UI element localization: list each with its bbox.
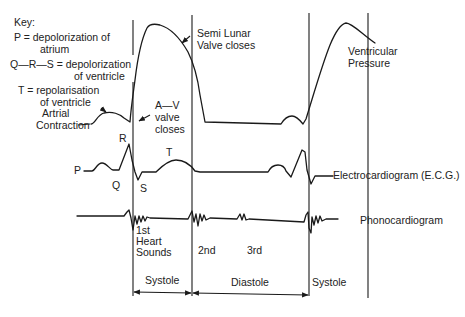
diastole-arrow xyxy=(193,293,308,295)
arrow-atrial-contraction xyxy=(101,108,106,112)
arrow-semilunar xyxy=(182,36,190,43)
phase-labels: Systole Diastole Systole xyxy=(145,274,347,288)
key-qrs-line2: of ventricle xyxy=(74,70,125,82)
label-ventricular-pressure-1: Ventricular xyxy=(348,45,398,57)
key-qrs-line1: Q—R—S = depolorization xyxy=(10,58,131,70)
key-legend: Key: P = depolorization of atrium Q—R—S … xyxy=(10,16,131,108)
ecg-curve xyxy=(84,144,333,184)
label-av-valve-3: closes xyxy=(155,123,185,135)
ecg-label-r: R xyxy=(119,132,127,144)
systole-arrow xyxy=(134,292,191,293)
key-title: Key: xyxy=(14,16,35,28)
phase-label-systole-2: Systole xyxy=(312,276,347,288)
phase-arrows xyxy=(134,292,308,295)
ecg-label-p: P xyxy=(74,164,81,176)
label-semilunar-1: Semi Lunar xyxy=(197,27,251,39)
arrow-av-valve xyxy=(139,115,150,121)
phono-label-third: 3rd xyxy=(247,244,262,256)
label-av-valve-1: A—V xyxy=(155,99,180,111)
label-atrial-contraction-2: Contraction xyxy=(36,119,90,131)
key-p-line1: P = depolorization of xyxy=(14,31,110,43)
phase-label-systole-1: Systole xyxy=(145,274,180,286)
phono-trace-name: Phonocardiogram xyxy=(360,214,443,226)
ecg-label-q: Q xyxy=(112,179,120,191)
label-atrial-contraction-1: Artrial xyxy=(42,107,69,119)
label-av-valve-2: valve xyxy=(155,111,180,123)
ecg-trace-name: Electrocardiogram (E.C.G.) xyxy=(333,169,460,181)
key-p-line2: atrium xyxy=(40,43,69,55)
ecg-label-t: T xyxy=(166,146,173,158)
phase-label-diastole: Diastole xyxy=(231,276,269,288)
ecg-labels: P Q R S T Electrocardiogram (E.C.G.) xyxy=(74,132,460,194)
phono-label-second: 2nd xyxy=(198,244,216,256)
label-semilunar-2: Valve closes xyxy=(197,39,255,51)
key-t-line1: T = repolarisation xyxy=(18,84,99,96)
ecg-label-s: S xyxy=(140,182,147,194)
cardiac-cycle-diagram: Key: P = depolorization of atrium Q—R—S … xyxy=(0,0,465,317)
phonocardiogram-curve xyxy=(77,210,338,233)
phono-label-first-3: Sounds xyxy=(136,246,172,258)
label-ventricular-pressure-2: Pressure xyxy=(348,57,390,69)
